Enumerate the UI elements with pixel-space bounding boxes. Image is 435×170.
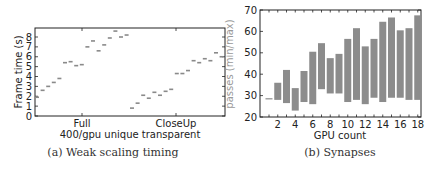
min-max-bar — [353, 28, 360, 100]
data-marker — [175, 73, 179, 75]
data-marker — [41, 90, 45, 92]
x-tick-label: 10 — [341, 119, 354, 130]
data-marker — [85, 46, 89, 48]
data-marker — [80, 64, 84, 66]
data-marker — [152, 92, 156, 94]
min-max-bar — [274, 83, 281, 100]
y-tick-label: 40 — [244, 69, 257, 80]
data-marker — [220, 56, 224, 58]
data-marker — [214, 52, 218, 54]
y-tick-label: 70 — [244, 5, 257, 16]
figure-caption-b: (b) Synapses — [304, 146, 376, 159]
figure-caption-a: (a) Weak scaling timing — [47, 146, 178, 159]
data-marker — [180, 73, 184, 75]
min-max-bar — [414, 15, 421, 100]
min-max-bar — [266, 98, 273, 99]
min-max-bar — [336, 54, 343, 94]
y-tick-label: 5 — [26, 61, 32, 72]
data-marker — [102, 44, 106, 46]
min-max-bar — [283, 70, 290, 103]
y-tick-label: 3 — [26, 81, 32, 92]
y-tick-label: 0 — [26, 111, 32, 122]
data-marker — [147, 97, 151, 99]
synapses-chart: 203040506070 24681012141618 passes (min/… — [224, 5, 424, 160]
data-marker — [97, 50, 101, 52]
data-marker — [197, 62, 201, 64]
x-tick-label: 4 — [292, 119, 298, 130]
data-marker — [57, 78, 61, 80]
y-tick-label: 30 — [244, 90, 257, 101]
min-max-bar — [301, 71, 308, 102]
x-tick-label: 6 — [310, 119, 316, 130]
x-tick-label: Full — [73, 118, 90, 129]
data-marker — [119, 36, 123, 38]
y-tick-label: 4 — [26, 71, 32, 82]
data-marker — [141, 94, 145, 96]
y-tick-label: 50 — [244, 47, 257, 58]
data-marker — [208, 60, 212, 62]
data-marker — [113, 30, 117, 32]
data-marker — [108, 37, 112, 39]
min-max-bar — [344, 39, 351, 102]
plot-frame — [35, 28, 225, 116]
data-marker — [52, 82, 56, 84]
min-max-bar — [327, 58, 334, 93]
y-tick-label: 7 — [26, 41, 32, 52]
min-max-bar — [397, 30, 404, 97]
min-max-bar — [309, 52, 316, 104]
data-markers — [35, 30, 224, 109]
data-marker — [169, 89, 173, 91]
data-marker — [192, 60, 196, 62]
x-tick-label: 16 — [394, 119, 407, 130]
x-axis: FullCloseUp — [73, 28, 196, 129]
y-tick-label: 2 — [26, 91, 32, 102]
data-marker — [130, 107, 134, 109]
x-tick-label: 18 — [411, 119, 424, 130]
min-max-bar — [406, 28, 413, 100]
data-marker — [125, 34, 129, 36]
data-marker — [164, 91, 168, 93]
y-axis: 012345678 — [26, 32, 225, 122]
min-max-bar — [379, 22, 386, 102]
y-tick-label: 6 — [26, 51, 32, 62]
min-max-bar — [371, 39, 378, 98]
data-marker — [136, 102, 140, 104]
y-tick-label: 20 — [244, 112, 257, 123]
data-marker — [91, 40, 95, 42]
data-bars — [266, 15, 422, 110]
x-tick-label: 8 — [327, 119, 333, 130]
data-marker — [46, 86, 50, 88]
min-max-bar — [388, 17, 395, 97]
min-max-bar — [362, 46, 369, 104]
data-marker — [69, 61, 73, 63]
min-max-bar — [292, 88, 299, 110]
data-marker — [74, 65, 78, 67]
x-axis-title: 400/gpu unique transparent — [60, 129, 201, 140]
weak-scaling-chart: 012345678 FullCloseUp Frame time (s) 400… — [13, 28, 225, 159]
y-axis-title: passes (min/max) — [224, 19, 235, 108]
data-marker — [35, 96, 39, 98]
data-marker — [63, 62, 67, 64]
y-tick-label: 1 — [26, 101, 32, 112]
x-tick-label: 14 — [376, 119, 389, 130]
figure: 012345678 FullCloseUp Frame time (s) 400… — [0, 0, 435, 170]
y-axis-title: Frame time (s) — [13, 35, 24, 108]
data-marker — [186, 70, 190, 72]
data-marker — [158, 94, 162, 96]
x-tick-label: 12 — [359, 119, 372, 130]
y-tick-label: 8 — [26, 32, 32, 43]
x-axis-title: GPU count — [314, 130, 367, 141]
x-tick-label: 2 — [275, 119, 281, 130]
x-tick-label: CloseUp — [156, 118, 197, 129]
min-max-bar — [318, 43, 325, 89]
data-marker — [203, 58, 207, 60]
y-tick-label: 60 — [244, 26, 257, 37]
